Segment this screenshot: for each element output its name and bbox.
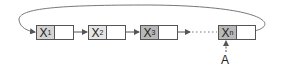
- list-node-x3: X3: [140, 25, 178, 40]
- list-node-x2: X2: [88, 25, 126, 40]
- pointer-a-label: A: [221, 53, 229, 67]
- node-pointer-cell: [237, 26, 255, 39]
- node-pointer-cell: [107, 26, 125, 39]
- node-label: Xn: [219, 26, 237, 39]
- node-pointer-cell: [159, 26, 177, 39]
- node-label: X1: [37, 26, 55, 39]
- list-node-xn: Xn: [218, 25, 256, 40]
- list-node-x1: X1: [36, 25, 74, 40]
- node-label: X3: [141, 26, 159, 39]
- node-label: X2: [89, 26, 107, 39]
- node-pointer-cell: [55, 26, 73, 39]
